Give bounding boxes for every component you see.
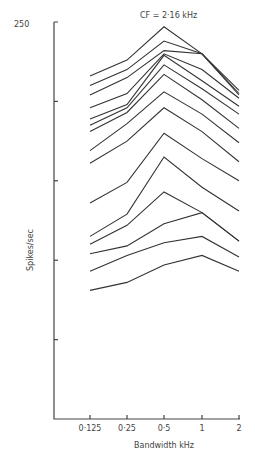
series-line [90,192,239,244]
series-line [90,108,239,164]
y-axis-label: Spikes/sec [26,229,35,271]
series-line [90,92,239,151]
chart: 250 CF = 2·16 kHz Spikes/sec Bandwidth k… [0,0,255,466]
x-tick-label: 0·5 [158,424,171,433]
series-line [90,65,239,125]
x-axis-label: Bandwidth kHz [134,441,194,450]
x-tick-label: 2 [236,424,241,433]
x-tick-label: 0·25 [118,424,136,433]
series-line [90,236,239,271]
series-line [90,54,239,108]
x-tick-label: 0·125 [79,424,102,433]
series-line [90,51,239,95]
x-tick-labels: 0·1250·250·512 [79,424,242,433]
chart-title: CF = 2·16 kHz [140,11,197,20]
y-tick-label-250: 250 [14,20,29,29]
x-tick-label: 1 [199,424,204,433]
series-line [90,74,239,131]
series-lines [90,27,239,291]
series-line [90,255,239,290]
series-line [90,41,239,93]
